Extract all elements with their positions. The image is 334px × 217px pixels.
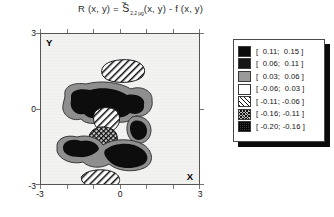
legend-box: [ 0.11; 0.15 ] [ 0.06; 0.11 ] [ 0.03; 0.… bbox=[233, 39, 325, 142]
y-axis-label: Y bbox=[46, 37, 52, 48]
legend-label: [ -0.06; 0.03 ] bbox=[256, 85, 304, 93]
legend-swatch-dense-crosshatch bbox=[238, 109, 251, 120]
title-subscript: 2,2 μg bbox=[130, 10, 143, 16]
legend-item: [ 0.11; 0.15 ] bbox=[238, 45, 320, 58]
legend-item: [ -0.20; -0.16 ] bbox=[238, 121, 320, 134]
legend-label: [ -0.11; -0.06 ] bbox=[256, 98, 304, 106]
legend-item: [ 0.03; 0.06 ] bbox=[238, 70, 320, 83]
y-tick-0: 0 bbox=[14, 105, 36, 114]
region-right-lobe bbox=[127, 116, 151, 143]
legend-item: [ -0.11; -0.06 ] bbox=[238, 95, 320, 108]
legend-swatch-diagonal-hatch bbox=[238, 96, 251, 107]
region-hatch-upper bbox=[102, 60, 145, 83]
x-tick-n3: -3 bbox=[30, 190, 50, 199]
s-tilde-symbol: ~S bbox=[122, 2, 130, 14]
legend-swatch-stipple-dark bbox=[238, 121, 251, 132]
title-suffix: - f (x, y) bbox=[166, 3, 203, 14]
figure-root: R (x, y) = ~S2,2 μg(x, y) - f (x, y) bbox=[0, 0, 334, 217]
legend-label: [ 0.03; 0.06 ] bbox=[256, 73, 304, 81]
region-hatch-lower bbox=[81, 170, 119, 185]
legend-item: [ -0.06; 0.03 ] bbox=[238, 83, 320, 96]
title-args: (x, y) bbox=[144, 3, 166, 14]
axis-ticks-right bbox=[200, 33, 204, 185]
title-prefix: R (x, y) = bbox=[78, 3, 122, 14]
legend-label: [ 0.11; 0.15 ] bbox=[256, 48, 303, 56]
legend-swatch-solid-dark bbox=[238, 58, 251, 69]
legend-item: [ -0.16; -0.11 ] bbox=[238, 108, 320, 121]
legend-swatch-solid-gray bbox=[238, 71, 251, 82]
plot-frame bbox=[40, 33, 200, 185]
legend-label: [ -0.16; -0.11 ] bbox=[256, 110, 304, 118]
legend-label: [ -0.20; -0.16 ] bbox=[256, 123, 305, 131]
legend-label: [ 0.06; 0.11 ] bbox=[256, 60, 303, 68]
x-tick-3: 3 bbox=[190, 190, 210, 199]
legend-swatch-solid-black bbox=[238, 46, 251, 57]
x-axis-label: X bbox=[187, 171, 193, 182]
y-tick-3: 3 bbox=[14, 29, 36, 38]
tilde-overbar: ~ bbox=[121, 0, 126, 8]
x-tick-0: 0 bbox=[110, 190, 130, 199]
contour-plot: Y X 3 0 -3 -3 0 3 bbox=[40, 33, 200, 185]
contour-svg bbox=[41, 34, 200, 185]
legend-swatch-solid-white bbox=[238, 84, 251, 95]
legend-item: [ 0.06; 0.11 ] bbox=[238, 58, 320, 71]
y-tick-n3: -3 bbox=[14, 182, 36, 191]
figure-title: R (x, y) = ~S2,2 μg(x, y) - f (x, y) bbox=[78, 2, 203, 16]
